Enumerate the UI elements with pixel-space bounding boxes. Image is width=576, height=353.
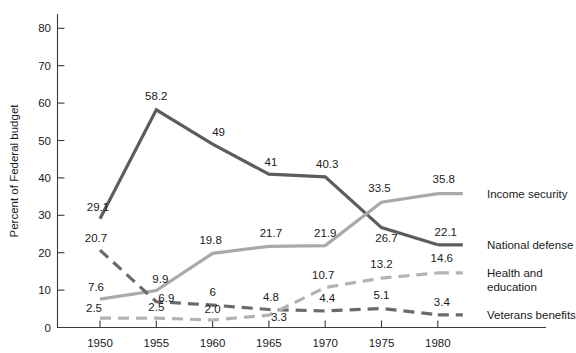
point-label: 58.2	[145, 90, 167, 102]
y-tick-label: 70	[38, 60, 51, 72]
x-tick-label: 1970	[312, 337, 338, 349]
y-tick-label: 20	[38, 247, 51, 259]
point-label: 22.1	[435, 226, 457, 238]
x-tick-label: 1960	[200, 337, 226, 349]
x-tick-label: 1965	[256, 337, 282, 349]
point-label: 49	[212, 126, 225, 138]
point-label: 2.0	[205, 303, 221, 315]
legend-label-national-defense: National defense	[487, 239, 573, 251]
y-tick-label: 0	[45, 322, 51, 334]
point-label: 29.1	[87, 201, 109, 213]
point-label: 4.8	[263, 291, 279, 303]
y-axis-title: Percent of Federal budget	[8, 104, 20, 238]
point-label: 35.8	[433, 173, 455, 185]
x-tick-label: 1980	[425, 337, 451, 349]
point-label: 5.1	[374, 289, 390, 301]
series-line-national-defense	[100, 110, 438, 245]
point-label: 19.8	[199, 234, 221, 246]
legend-label-health-and: Health and	[487, 267, 543, 279]
point-label: 40.3	[316, 158, 338, 170]
point-label: 20.7	[85, 232, 107, 244]
point-label: 33.5	[368, 182, 390, 194]
x-tick-label: 1950	[87, 337, 113, 349]
point-label: 41	[265, 156, 278, 168]
y-tick-label: 80	[38, 22, 51, 34]
point-label: 13.2	[370, 258, 392, 270]
legend-label-education: education	[487, 281, 537, 293]
point-label: 7.6	[88, 281, 104, 293]
point-label: 26.7	[375, 232, 397, 244]
point-label: 10.7	[312, 269, 334, 281]
y-tick-label: 50	[38, 135, 51, 147]
point-label: 21.7	[260, 227, 282, 239]
legend-label-veterans-benefits: Veterans benefits	[487, 309, 576, 321]
legend-label-income-security: Income security	[487, 188, 568, 200]
point-label: 9.9	[152, 273, 168, 285]
y-tick-label: 40	[38, 172, 51, 184]
point-label: 2.5	[148, 301, 164, 313]
line-chart: 01020304050607080 1950195519601965197019…	[0, 0, 576, 353]
point-label: 4.4	[319, 292, 336, 304]
point-label: 6	[209, 286, 215, 298]
point-label: 3.4	[434, 296, 451, 308]
x-axis-ticks: 1950195519601965197019751980	[87, 321, 450, 350]
y-axis-ticks: 01020304050607080	[38, 22, 64, 333]
x-tick-label: 1975	[369, 337, 395, 349]
point-label: 3.3	[271, 311, 287, 323]
y-tick-label: 30	[38, 209, 51, 221]
x-tick-label: 1955	[144, 337, 170, 349]
y-tick-label: 60	[38, 97, 51, 109]
point-label: 21.9	[314, 227, 336, 239]
y-tick-label: 10	[38, 284, 51, 296]
point-label: 2.5	[86, 302, 102, 314]
series-line-income-security	[100, 194, 438, 300]
series-layer	[100, 110, 463, 320]
chart-svg: 01020304050607080 1950195519601965197019…	[0, 0, 576, 353]
point-label: 14.6	[431, 252, 453, 264]
legend-layer: Income securityNational defenseHealth an…	[487, 188, 576, 321]
